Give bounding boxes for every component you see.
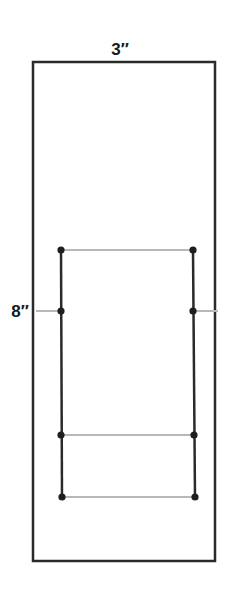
- anchor-points: [57, 246, 198, 500]
- point-bottom-right: [191, 493, 198, 500]
- width-label: 3″: [111, 40, 129, 59]
- point-lower-left: [57, 431, 64, 438]
- point-top-left: [57, 246, 64, 253]
- point-top-right: [189, 246, 196, 253]
- inner-left-bar: [61, 250, 62, 497]
- point-mid-left: [57, 307, 64, 314]
- height-label: 8″: [11, 302, 29, 321]
- inner-right-bar: [193, 250, 195, 497]
- point-lower-right: [190, 431, 197, 438]
- point-bottom-left: [58, 493, 65, 500]
- point-mid-right: [189, 307, 196, 314]
- frame-diagram: 3″ 8″: [0, 0, 235, 591]
- guide-lines: [36, 250, 218, 497]
- inner-frame: [61, 250, 195, 497]
